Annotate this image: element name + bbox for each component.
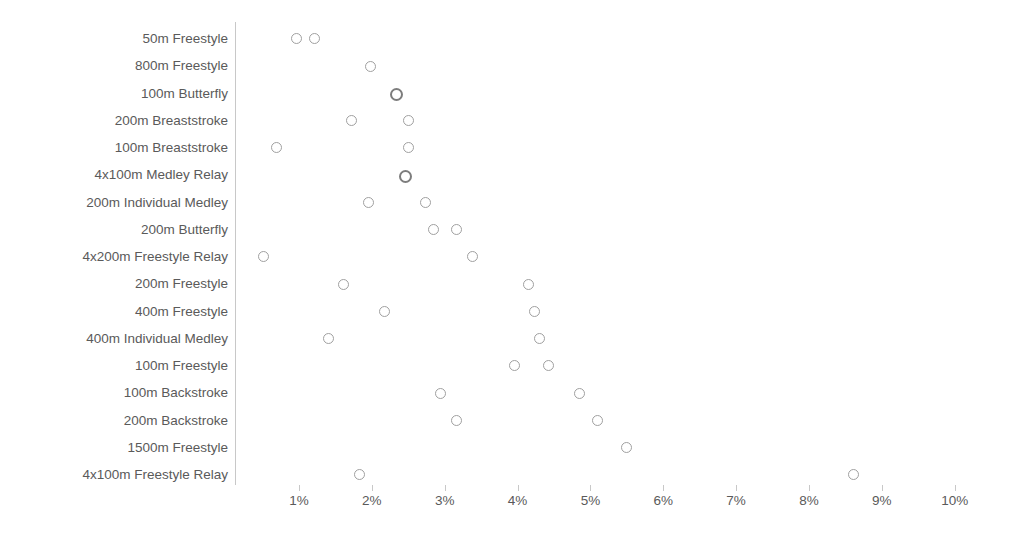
data-point-marker	[534, 333, 545, 344]
x-axis-tick	[372, 485, 373, 491]
category-label: 100m Breaststroke	[0, 141, 228, 155]
data-point-marker	[543, 360, 554, 371]
x-axis-tick-label: 8%	[779, 494, 839, 508]
category-label: 100m Backstroke	[0, 386, 228, 400]
category-label: 4x100m Freestyle Relay	[0, 468, 228, 482]
x-axis-tick	[955, 485, 956, 491]
data-point-marker	[574, 388, 585, 399]
category-label-row: 400m Individual Medley	[0, 332, 228, 346]
category-label-row: 200m Backstroke	[0, 414, 228, 428]
category-label-row: 100m Butterfly	[0, 87, 228, 101]
data-point-marker	[435, 388, 446, 399]
category-label: 800m Freestyle	[0, 59, 228, 73]
category-label-row: 4x100m Freestyle Relay	[0, 468, 228, 482]
data-point-marker	[365, 61, 376, 72]
category-label: 4x200m Freestyle Relay	[0, 250, 228, 264]
x-axis-tick-label: 6%	[633, 494, 693, 508]
category-label-row: 200m Freestyle	[0, 277, 228, 291]
category-label-row: 100m Backstroke	[0, 386, 228, 400]
data-point-marker	[529, 306, 540, 317]
x-axis-tick-label: 1%	[269, 494, 329, 508]
data-point-marker	[309, 33, 320, 44]
category-label: 50m Freestyle	[0, 32, 228, 46]
data-point-marker	[451, 224, 462, 235]
x-axis-tick-label: 9%	[852, 494, 912, 508]
data-point-marker	[291, 33, 302, 44]
category-label: 1500m Freestyle	[0, 441, 228, 455]
category-label-row: 4x200m Freestyle Relay	[0, 250, 228, 264]
x-axis-tick	[736, 485, 737, 491]
category-label-row: 1500m Freestyle	[0, 441, 228, 455]
x-axis-tick-label: 7%	[706, 494, 766, 508]
data-point-marker	[403, 115, 414, 126]
x-axis-tick-label: 3%	[415, 494, 475, 508]
category-label-row: 200m Butterfly	[0, 223, 228, 237]
data-point-marker	[271, 142, 282, 153]
x-axis-tick	[882, 485, 883, 491]
data-point-marker	[379, 306, 390, 317]
x-axis-tick	[518, 485, 519, 491]
x-axis-tick	[663, 485, 664, 491]
category-label: 200m Butterfly	[0, 223, 228, 237]
y-axis-line	[235, 22, 236, 485]
category-label: 100m Butterfly	[0, 87, 228, 101]
category-label-row: 800m Freestyle	[0, 59, 228, 73]
data-point-marker	[420, 197, 431, 208]
category-label: 200m Individual Medley	[0, 196, 228, 210]
x-axis-tick-label: 2%	[342, 494, 402, 508]
category-label-row: 400m Freestyle	[0, 305, 228, 319]
data-point-marker	[428, 224, 439, 235]
category-label: 100m Freestyle	[0, 359, 228, 373]
data-point-marker	[621, 442, 632, 453]
data-point-marker	[354, 469, 365, 480]
category-label-row: 100m Breaststroke	[0, 141, 228, 155]
dot-plot-chart: 50m Freestyle800m Freestyle100m Butterfl…	[0, 0, 1023, 540]
x-axis-tick-label: 10%	[925, 494, 985, 508]
x-axis-tick	[809, 485, 810, 491]
x-axis-tick	[590, 485, 591, 491]
category-label-row: 200m Individual Medley	[0, 196, 228, 210]
x-axis-tick-label: 4%	[488, 494, 548, 508]
category-label: 200m Backstroke	[0, 414, 228, 428]
data-point-marker	[399, 170, 412, 183]
x-axis-tick-label: 5%	[560, 494, 620, 508]
plot-area: 50m Freestyle800m Freestyle100m Butterfl…	[0, 0, 1023, 540]
data-point-marker	[451, 415, 462, 426]
data-point-marker	[467, 251, 478, 262]
category-label: 200m Freestyle	[0, 277, 228, 291]
category-label: 400m Individual Medley	[0, 332, 228, 346]
category-label: 400m Freestyle	[0, 305, 228, 319]
category-label: 4x100m Medley Relay	[0, 168, 228, 182]
data-point-marker	[390, 88, 403, 101]
category-label-row: 200m Breaststroke	[0, 114, 228, 128]
data-point-marker	[323, 333, 334, 344]
data-point-marker	[848, 469, 859, 480]
data-point-marker	[346, 115, 357, 126]
data-point-marker	[258, 251, 269, 262]
category-label-row: 50m Freestyle	[0, 32, 228, 46]
category-label-row: 100m Freestyle	[0, 359, 228, 373]
category-label: 200m Breaststroke	[0, 114, 228, 128]
data-point-marker	[338, 279, 349, 290]
data-point-marker	[523, 279, 534, 290]
x-axis-tick	[445, 485, 446, 491]
category-label-row: 4x100m Medley Relay	[0, 168, 228, 182]
data-point-marker	[592, 415, 603, 426]
data-point-marker	[403, 142, 414, 153]
data-point-marker	[509, 360, 520, 371]
data-point-marker	[363, 197, 374, 208]
x-axis-tick	[299, 485, 300, 491]
